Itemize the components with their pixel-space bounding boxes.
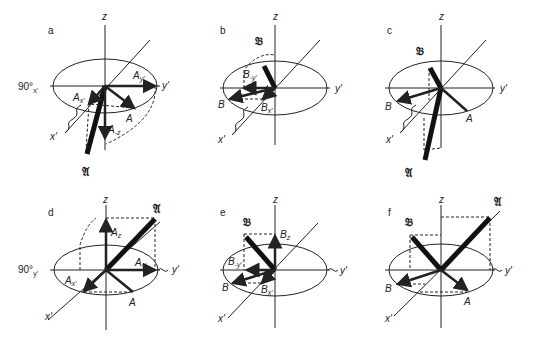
- label-B-frak: 𝔅: [415, 45, 424, 58]
- y-label: y': [171, 264, 180, 275]
- x-label: x': [217, 313, 226, 324]
- panel-b: b z y' x' 𝔅 B-y' B Bx': [217, 11, 343, 145]
- y-label: y': [334, 83, 343, 94]
- label-Bmy: B-y': [243, 69, 258, 82]
- z-label: z: [272, 11, 278, 22]
- label-B: B: [385, 101, 392, 112]
- label-Ay: Ay': [132, 70, 145, 83]
- y-label: y': [161, 80, 170, 91]
- panel-label-b: b: [220, 25, 226, 36]
- x-label: x': [384, 313, 393, 324]
- label-Az: Az: [110, 227, 122, 239]
- panel-d: d 90°y' z y' x' 𝔄 Az Ay' Ax' A: [18, 194, 180, 330]
- x-label: x': [217, 134, 226, 145]
- label-Bx: Bx': [261, 102, 273, 114]
- label-Bmy: B-y': [228, 256, 243, 269]
- label-Bz: Bz: [280, 229, 291, 241]
- label-B-frak: 𝔅: [404, 216, 413, 229]
- nmr-vector-diagram: a 90°x' z y' x' Ay' Ax' A A-z 𝔄 b z y' x…: [0, 0, 537, 343]
- panel-label-a: a: [48, 25, 54, 36]
- panel-f: f z y' x' 𝔄 𝔅 B A: [384, 194, 513, 328]
- x-label: x': [385, 134, 394, 145]
- z-label: z: [438, 194, 444, 205]
- panel-label-d: d: [48, 207, 54, 218]
- panel-e: e z y' x' 𝔅 Bz B-y' B Bx': [217, 194, 348, 328]
- label-B-frak: 𝔅: [242, 216, 251, 229]
- z-label: z: [101, 11, 107, 22]
- panel-c: c z y' x' 𝔅 B A 𝔄: [385, 11, 508, 180]
- y-label: y': [504, 265, 513, 276]
- y-label: y': [339, 265, 348, 276]
- y-label: y': [499, 83, 508, 94]
- label-B-frak: 𝔅: [254, 35, 263, 48]
- label-A: A: [125, 113, 133, 124]
- vector-B: [398, 88, 441, 101]
- label-Bx: Bx': [261, 284, 273, 296]
- vector-B-frak: [430, 68, 441, 88]
- label-A: A: [463, 296, 471, 307]
- vector-A: [106, 270, 133, 292]
- x-label: x': [44, 311, 53, 322]
- panel-a: a 90°x' z y' x' Ay' Ax' A A-z 𝔄: [18, 11, 170, 179]
- label-A-frak: 𝔄: [81, 166, 90, 179]
- panel-label-e: e: [220, 207, 226, 218]
- label-B: B: [222, 282, 229, 293]
- label-Ax: Ax': [64, 275, 77, 287]
- label-B: B: [218, 99, 225, 110]
- z-label: z: [438, 11, 444, 22]
- vector-B: [398, 270, 441, 284]
- label-A: A: [128, 297, 136, 308]
- label-B: B: [385, 283, 392, 294]
- vector-B-frak: [246, 237, 275, 270]
- label-Ay: Ay': [134, 257, 147, 270]
- vector-A: [441, 88, 467, 111]
- z-label: z: [102, 194, 108, 205]
- panel-label-c: c: [387, 25, 392, 36]
- label-A-frak: 𝔄: [152, 203, 161, 216]
- z-label: z: [272, 194, 278, 205]
- rotation-label-d: 90°y': [18, 264, 38, 278]
- vector-A: [441, 270, 467, 290]
- x-label: x': [49, 131, 58, 142]
- label-A-frak: 𝔄: [493, 196, 502, 209]
- vector-B-frak: [264, 66, 275, 88]
- vector-B-frak: [412, 237, 441, 270]
- label-A-frak: 𝔄: [404, 167, 413, 180]
- label-A: A: [465, 113, 473, 124]
- vector-A: [105, 86, 134, 108]
- rotation-label-a: 90°x': [18, 81, 38, 94]
- panel-label-f: f: [388, 207, 391, 218]
- label-Ax: Ax': [72, 92, 85, 104]
- component-Ax: [84, 270, 106, 291]
- label-Amz: A-z: [107, 124, 121, 136]
